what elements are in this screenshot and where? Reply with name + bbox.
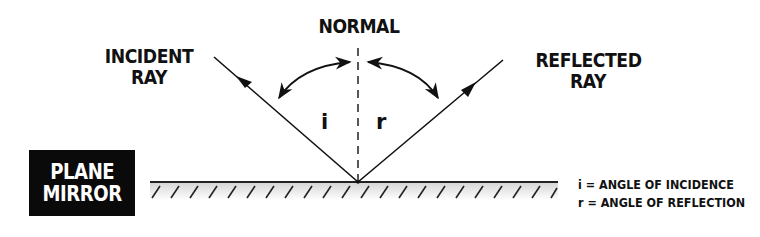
reflected-label-line1: REFLECTED <box>536 50 641 71</box>
normal-label: NORMAL <box>317 16 401 37</box>
legend-item-reflection: r = ANGLE OF REFLECTION <box>578 194 745 212</box>
incident-arrow-icon <box>236 76 252 88</box>
reflected-label-line2: RAY <box>536 71 641 92</box>
mirror-label-line2: MIRROR <box>42 183 121 205</box>
reflected-ray-label: REFLECTED RAY <box>536 50 641 92</box>
point-of-incidence <box>356 180 360 184</box>
incident-ray <box>214 57 358 182</box>
incident-label-line2: RAY <box>102 67 197 88</box>
mirror-label-line1: PLANE <box>50 161 114 183</box>
legend-item-incidence: i = ANGLE OF INCIDENCE <box>578 176 745 194</box>
angle-i-symbol: i <box>321 110 328 134</box>
angle-r-symbol: r <box>376 110 386 134</box>
reflected-arrow-icon <box>461 82 476 97</box>
mirror-surface <box>150 182 558 200</box>
angle-r-arc-icon <box>368 62 438 98</box>
legend: i = ANGLE OF INCIDENCE r = ANGLE OF REFL… <box>578 176 745 211</box>
angle-i-arc-icon <box>279 62 350 98</box>
incident-label-line1: INCIDENT <box>102 46 197 67</box>
incident-ray-label: INCIDENT RAY <box>102 46 197 88</box>
plane-mirror-label: PLANE MIRROR <box>29 150 135 216</box>
mirror-shading <box>150 182 558 200</box>
